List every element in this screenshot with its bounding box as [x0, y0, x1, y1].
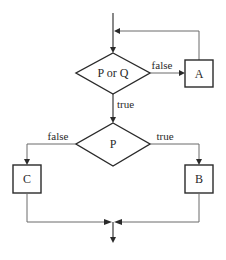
- process-a-label: A: [195, 67, 204, 81]
- edge-false-to-a: false: [150, 59, 185, 76]
- edge-label-false-c: false: [48, 130, 69, 142]
- edge-label-false-a: false: [152, 59, 173, 71]
- process-c-label: C: [23, 172, 31, 186]
- loop-back-edge: [114, 28, 199, 60]
- decision-p-or-q: P or Q: [76, 53, 150, 94]
- arrowhead-icon: [114, 219, 122, 225]
- arrowhead-icon: [110, 47, 116, 53]
- flowchart-diagram: P or Q false A true P false true C: [0, 0, 226, 260]
- arrowhead-icon: [110, 237, 116, 243]
- arrowhead-icon: [114, 28, 120, 34]
- process-b-label: B: [195, 172, 203, 186]
- edge-true-to-p: true: [110, 94, 134, 123]
- arrowhead-icon: [179, 70, 185, 76]
- edge-label-true-b: true: [156, 130, 173, 142]
- process-c: C: [13, 165, 41, 193]
- decision-p-label: P: [110, 137, 117, 151]
- exit-edge: [110, 222, 116, 243]
- process-b: B: [185, 165, 213, 193]
- process-a: A: [185, 60, 213, 87]
- arrowhead-icon: [110, 117, 116, 123]
- edge-label-true-p: true: [117, 98, 134, 110]
- decision-p-or-q-label: P or Q: [98, 66, 129, 80]
- decision-p: P: [76, 123, 150, 166]
- edge-false-to-c: false: [24, 130, 76, 165]
- arrowhead-icon: [196, 159, 202, 165]
- entry-edge: [110, 13, 116, 53]
- edge-b-to-exit: [114, 193, 199, 225]
- edge-c-to-exit: [27, 193, 112, 225]
- arrowhead-icon: [104, 219, 112, 225]
- arrowhead-icon: [24, 159, 30, 165]
- edge-true-to-b: true: [150, 130, 202, 165]
